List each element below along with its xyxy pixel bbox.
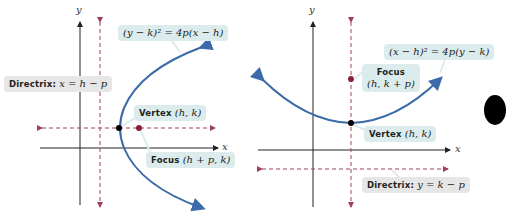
left-vertex-label-title: Vertex [139, 108, 172, 118]
right-focus-point [348, 76, 354, 82]
right-vertex-label-title: Vertex [369, 129, 402, 139]
left-vertex-label: Vertex (h, k) [134, 105, 206, 121]
page-edge-bullet-marker [484, 95, 506, 125]
right-equation-pointer [440, 60, 445, 73]
right-equation-text: (x − h)² = 4p(y − k) [389, 46, 489, 57]
right-directrix-label-title: Directrix: [367, 180, 414, 190]
left-equation-text: (y − k)² = 4p(x − h) [123, 27, 223, 38]
left-x-axis-label: x [222, 141, 228, 152]
right-equation-label: (x − h)² = 4p(y − k) [384, 44, 494, 60]
right-vertex-label-coords: (h, k) [405, 128, 432, 139]
left-directrix-label: Directrix: x = h − p [4, 76, 112, 92]
left-vertex-point [116, 125, 122, 131]
left-vertex-label-coords: (h, k) [175, 107, 202, 118]
left-focus-point [136, 125, 142, 131]
right-focus-label-title: Focus [367, 66, 415, 78]
right-focus-label-coords: (h, k + p) [367, 78, 415, 90]
left-vertex-pointer [122, 118, 135, 126]
left-focus-pointer [141, 131, 150, 152]
left-equation-label: (y − k)² = 4p(x − h) [118, 25, 228, 41]
right-vertex-point [348, 120, 354, 126]
left-focus-label: Focus (h + p, k) [146, 152, 235, 168]
left-directrix-label-title: Directrix: [9, 79, 56, 89]
left-focus-label-coords: (h + p, k) [183, 154, 231, 165]
right-directrix-label-equation: y = k − p [417, 179, 465, 190]
right-vertex-label: Vertex (h, k) [364, 126, 436, 142]
right-directrix-label: Directrix: y = k − p [362, 177, 470, 193]
right-x-axis-label: x [455, 143, 461, 154]
left-y-axis-label: y [76, 4, 82, 15]
right-y-axis-label: y [309, 4, 315, 15]
left-focus-label-title: Focus [151, 155, 179, 165]
left-directrix-label-equation: x = h − p [59, 78, 107, 89]
right-focus-label: Focus (h, k + p) [362, 64, 420, 92]
